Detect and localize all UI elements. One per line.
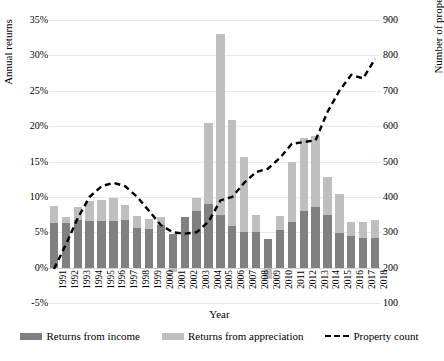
y-tick-left: 15% [14,157,48,167]
x-axis-ticks: 1991199219931994199519961997199819992000… [48,270,381,310]
y-tick-left: -5% [14,298,48,308]
y-tick-right: 600 [383,121,417,131]
x-tick-year: 2007 [248,270,258,289]
y-tick-left: 35% [14,15,48,25]
y-axis-left-title: Annual returns [2,0,14,112]
x-tick-year: 1994 [94,270,104,289]
y-axis-left-ticks: 35%30%25%20%15%10%5%0%-5% [14,0,48,361]
legend-swatch-icon [20,333,42,340]
x-tick-year: 1996 [117,270,127,289]
x-tick-year: 1995 [106,270,116,289]
x-tick-year: 2009 [272,270,282,289]
y-tick-left: 25% [14,86,48,96]
legend-label: Returns from appreciation [188,330,303,342]
legend-item[interactable]: Returns from income [20,330,139,342]
y-tick-left: 5% [14,227,48,237]
property-count-line [48,20,381,303]
x-tick-year: 2010 [284,270,294,289]
x-tick-year: 1991 [58,270,68,289]
x-tick-year: 1993 [82,270,92,289]
y-tick-right: 800 [383,50,417,60]
x-tick-year: 2002 [189,270,199,289]
y-tick-left: 10% [14,192,48,202]
x-tick-year: 2016 [355,270,365,289]
x-tick-year: 2001 [177,270,187,289]
x-tick-year: 2005 [224,270,234,289]
x-tick-year: 2017 [367,270,377,289]
y-tick-left: 30% [14,50,48,60]
y-tick-right: 400 [383,192,417,202]
x-tick-year: 1998 [141,270,151,289]
x-tick-year: 2006 [236,270,246,289]
y-tick-right: 700 [383,86,417,96]
x-tick-year: 2014 [331,270,341,289]
legend-item[interactable]: Returns from appreciation [162,330,303,342]
x-tick-year: 2013 [320,270,330,289]
x-tick-year: 1997 [129,270,139,289]
x-tick-year: 2015 [343,270,353,289]
property-count-polyline [54,59,375,269]
y-tick-right: 100 [383,298,417,308]
x-tick-year: 2003 [201,270,211,289]
x-tick-year: 2000 [165,270,175,289]
y-tick-right: 900 [383,15,417,25]
y-axis-right-ticks: 900800700600500400300200100 [383,0,417,361]
chart-legend: Returns from incomeReturns from apprecia… [0,330,439,342]
y-axis-right-title: Number of properties in index [432,0,444,92]
x-tick-year: 1992 [70,270,80,289]
x-tick-year: 2012 [308,270,318,289]
y-tick-left: 0% [14,263,48,273]
legend-label: Property count [353,330,418,342]
plot-area [48,20,381,303]
x-tick-year: 1999 [153,270,163,289]
x-tick-year: 2011 [296,270,306,289]
x-tick-year: 2018 [379,270,389,289]
x-tick-year: 2008 [260,270,270,289]
legend-swatch-icon [162,333,184,340]
x-tick-year: 2004 [213,270,223,289]
y-tick-right: 300 [383,227,417,237]
legend-item[interactable]: Property count [325,330,418,342]
legend-dashed-line-icon [325,335,349,337]
legend-label: Returns from income [46,330,139,342]
y-tick-right: 500 [383,157,417,167]
y-tick-left: 20% [14,121,48,131]
